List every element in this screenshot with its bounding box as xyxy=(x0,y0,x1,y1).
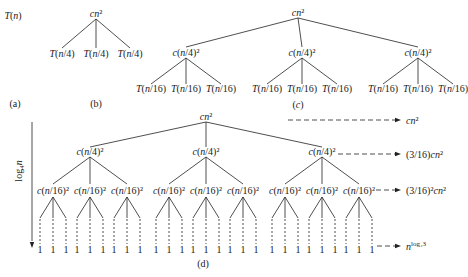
node-level2-d: c(n/16)² xyxy=(227,186,259,196)
tree-edge xyxy=(127,197,140,218)
leaf-one: 1 xyxy=(112,245,117,255)
leaf-one: 1 xyxy=(101,245,106,255)
tree-edge xyxy=(53,197,66,218)
leaf-one: 1 xyxy=(180,245,185,255)
node-level1-c: c(n/4)² xyxy=(173,48,200,58)
tree-edge xyxy=(230,197,243,218)
leaf-one: 1 xyxy=(167,245,172,255)
node-leaf-c: T(n/16) xyxy=(206,84,236,94)
tree-edge xyxy=(90,197,103,218)
node-leaf-c: T(n/16) xyxy=(252,84,282,94)
caption-c: (c) xyxy=(292,99,303,110)
arrow-head-icon xyxy=(30,242,34,248)
node-leaf-c: T(n/16) xyxy=(287,84,317,94)
leaf-one: 1 xyxy=(154,245,159,255)
leaf-one: 1 xyxy=(88,245,93,255)
tree-edge xyxy=(151,58,186,84)
level-cost-2: (3/16)²cn² xyxy=(406,185,446,196)
node-level2-d: c(n/16)² xyxy=(343,186,375,196)
leaf-one: 1 xyxy=(38,245,43,255)
node-level2-d: c(n/16)² xyxy=(153,186,185,196)
leaf-one: 1 xyxy=(125,245,130,255)
arrow-head-icon xyxy=(395,118,401,122)
leaf-one: 1 xyxy=(51,245,56,255)
node-level1-d: c(n/4)² xyxy=(77,147,104,157)
tree-edge xyxy=(309,197,322,218)
node-leaf-c: T(n/16) xyxy=(368,84,398,94)
node-leaf-c: T(n/16) xyxy=(438,84,468,94)
tree-edge xyxy=(53,157,90,184)
level-cost-3: nlog₄3 xyxy=(406,240,426,252)
caption-d: (d) xyxy=(197,258,209,269)
tree-edge xyxy=(156,197,169,218)
tree-edge xyxy=(243,197,256,218)
leaf-one: 1 xyxy=(320,245,325,255)
height-label: log₄n xyxy=(14,160,24,181)
leaf-one: 1 xyxy=(204,245,209,255)
node-root-b: cn² xyxy=(90,9,102,19)
leaf-one: 1 xyxy=(217,245,222,255)
leaf-one: 1 xyxy=(333,245,338,255)
node-level2-d: c(n/16)² xyxy=(190,186,222,196)
caption-a: (a) xyxy=(9,98,20,109)
node-child-b: T(n/4) xyxy=(117,49,142,59)
tree-edge xyxy=(206,122,322,147)
leaf-one: 1 xyxy=(241,245,246,255)
tree-edge xyxy=(346,197,359,218)
leaf-one: 1 xyxy=(357,245,362,255)
arrow-head-icon xyxy=(395,244,401,248)
tree-edge xyxy=(40,197,53,218)
leaf-one: 1 xyxy=(138,245,143,255)
node-leaf-c: T(n/16) xyxy=(136,84,166,94)
node-level1-d: c(n/4)² xyxy=(193,147,220,157)
tree-edge xyxy=(90,157,127,184)
level-cost-0: cn² xyxy=(406,115,418,126)
tree-edge xyxy=(322,197,335,218)
tree-edge xyxy=(186,58,221,84)
node-root-d: cn² xyxy=(200,112,212,122)
tree-edge xyxy=(322,157,359,184)
tree-edge xyxy=(272,197,285,218)
tree-edge xyxy=(193,197,206,218)
node-child-b: T(n/4) xyxy=(49,49,74,59)
leaf-one: 1 xyxy=(283,245,288,255)
tree-edge xyxy=(359,197,372,218)
node-level2-d: c(n/16)² xyxy=(306,186,338,196)
leaf-one: 1 xyxy=(307,245,312,255)
tree-edge xyxy=(418,58,453,84)
node-t-n: T(n) xyxy=(4,11,21,21)
leaf-one: 1 xyxy=(64,245,69,255)
node-leaf-c: T(n/16) xyxy=(322,84,352,94)
node-leaf-c: T(n/16) xyxy=(171,84,201,94)
leaf-one: 1 xyxy=(270,245,275,255)
arrow-head-icon xyxy=(395,152,401,156)
leaf-one: 1 xyxy=(254,245,259,255)
tree-edge xyxy=(186,18,298,47)
leaf-one: 1 xyxy=(228,245,233,255)
tree-edge xyxy=(267,58,302,84)
node-level2-d: c(n/16)² xyxy=(111,186,143,196)
leaf-one: 1 xyxy=(75,245,80,255)
tree-edge xyxy=(169,157,206,184)
node-level1-d: c(n/4)² xyxy=(309,147,336,157)
caption-b: (b) xyxy=(90,98,102,109)
tree-edge xyxy=(90,122,206,147)
leaf-one: 1 xyxy=(344,245,349,255)
tree-edge xyxy=(206,157,243,184)
tree-edge xyxy=(77,197,90,218)
tree-edge xyxy=(62,19,96,48)
node-level1-c: c(n/4)² xyxy=(405,48,432,58)
node-child-b: T(n/4) xyxy=(83,49,108,59)
tree-edge xyxy=(206,197,219,218)
node-level2-d: c(n/16)² xyxy=(74,186,106,196)
leaf-one: 1 xyxy=(370,245,375,255)
tree-edge xyxy=(285,157,322,184)
leaf-one: 1 xyxy=(296,245,301,255)
leaf-one: 1 xyxy=(191,245,196,255)
node-level1-c: c(n/4)² xyxy=(289,48,316,58)
tree-edge xyxy=(285,197,298,218)
node-level2-d: c(n/16)² xyxy=(37,186,69,196)
level-cost-1: (3/16)cn² xyxy=(406,149,443,160)
node-leaf-c: T(n/16) xyxy=(403,84,433,94)
